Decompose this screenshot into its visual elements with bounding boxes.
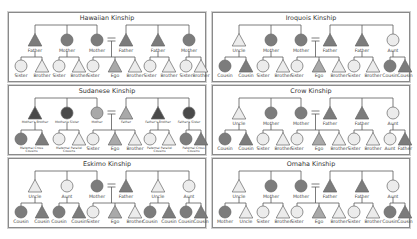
child-label: Brother <box>274 73 291 78</box>
parent-label: Aunt <box>62 194 73 199</box>
female-circle-icon <box>384 60 396 72</box>
parent-label: Father's Brother <box>145 120 171 124</box>
female-circle-icon <box>295 180 307 192</box>
parent-label: Father <box>323 194 338 199</box>
female-circle-icon <box>61 107 73 119</box>
parent-label: Uncle <box>152 194 165 199</box>
parent-label: Mother <box>89 48 105 53</box>
child-label: Sister <box>86 146 99 151</box>
male-triangle-icon <box>332 60 346 73</box>
male-triangle-icon <box>128 206 142 219</box>
female-circle-icon <box>91 107 103 119</box>
parent-label: Father <box>355 121 370 126</box>
male-triangle-icon <box>312 206 326 219</box>
child-label: Ego <box>111 146 120 151</box>
child-label: Cousin <box>382 219 398 224</box>
child-label: Ego <box>315 73 324 78</box>
male-triangle-icon <box>28 180 42 193</box>
child-label: Ego <box>315 219 324 224</box>
child-label: Brother <box>126 73 143 78</box>
child-label: Sister <box>52 73 65 78</box>
child-label: Cousin <box>161 219 177 224</box>
panel-eskimo: Eskimo Kinship UncleAuntMotherFatherUncl… <box>8 158 206 228</box>
female-circle-icon <box>384 133 396 145</box>
parent-label: Mother <box>91 120 103 124</box>
parent-label: Uncle <box>233 48 246 53</box>
female-circle-icon <box>61 180 73 192</box>
male-triangle-icon <box>72 60 86 73</box>
female-circle-icon <box>348 60 360 72</box>
male-triangle-icon <box>366 133 380 146</box>
parent-label: Uncle <box>233 121 246 126</box>
male-triangle-icon <box>332 206 346 219</box>
male-triangle-icon <box>323 107 337 120</box>
parent-label: Mother <box>263 121 279 126</box>
child-label: Sister <box>347 219 360 224</box>
kinship-diagram-grid: Hawaiian Kinship FatherMotherMotherFathe… <box>0 0 417 239</box>
female-circle-icon <box>15 60 27 72</box>
child-label: Brother <box>33 73 50 78</box>
child-label: Brother <box>364 219 381 224</box>
male-triangle-icon <box>151 34 165 47</box>
male-triangle-icon <box>276 206 290 219</box>
parent-label: Father <box>151 48 166 53</box>
parent-label: Father <box>323 48 338 53</box>
female-circle-icon <box>144 60 156 72</box>
male-triangle-icon <box>151 180 165 193</box>
child-label: Sister <box>347 73 360 78</box>
child-label: Aunt <box>385 146 396 151</box>
female-circle-icon <box>387 107 399 119</box>
female-circle-icon <box>183 107 195 119</box>
parent-label: Father <box>323 121 338 126</box>
female-circle-icon <box>61 34 73 46</box>
female-circle-icon <box>219 133 231 145</box>
child-label: Cousin <box>178 219 194 224</box>
cousin-group-label: Cousins <box>25 149 37 153</box>
female-circle-icon <box>53 60 65 72</box>
male-triangle-icon <box>108 60 122 73</box>
female-circle-icon <box>219 60 231 72</box>
male-triangle-icon <box>332 133 346 146</box>
child-label: Cousin <box>217 73 233 78</box>
child-label: Cousin <box>34 219 50 224</box>
cousin-group-label: Cousins <box>153 149 165 153</box>
child-label: Sister <box>14 73 27 78</box>
parent-label: Aunt <box>184 194 195 199</box>
male-triangle-icon <box>128 133 142 146</box>
female-circle-icon <box>91 34 103 46</box>
child-label: Sister <box>347 146 360 151</box>
male-triangle-icon <box>239 206 253 219</box>
child-label: Brother <box>330 73 347 78</box>
child-label: Cousin <box>71 219 87 224</box>
parent-label: Uncle <box>29 194 42 199</box>
parent-label: Father <box>355 48 370 53</box>
kinship-tree: UncleMotherMotherFatherFatherAuntCousinC… <box>213 86 409 154</box>
child-label: Brother <box>330 219 347 224</box>
child-label: Cousin <box>397 73 413 78</box>
child-label: Sister <box>256 73 269 78</box>
male-triangle-icon <box>35 133 49 146</box>
parent-label: Aunt <box>388 48 399 53</box>
parent-label: Mother <box>263 194 279 199</box>
panel-iroquois: Iroquois Kinship UncleMotherMotherFather… <box>212 12 410 82</box>
male-triangle-icon <box>162 60 176 73</box>
male-triangle-icon <box>194 206 208 219</box>
male-triangle-icon <box>398 206 412 219</box>
kinship-tree: FatherMotherMotherFatherFatherMotherSist… <box>9 13 205 81</box>
child-label: Cousin <box>238 146 254 151</box>
male-triangle-icon <box>312 60 326 73</box>
kinship-tree: UncleAuntMotherFatherUncleAuntCousinCous… <box>9 159 205 227</box>
child-label: Sister <box>290 219 303 224</box>
female-circle-icon <box>387 34 399 46</box>
female-circle-icon <box>257 60 269 72</box>
child-label: Sister <box>86 219 99 224</box>
kinship-tree: Mother's BrotherMother's SisterMotherFat… <box>9 86 205 154</box>
cousin-group-label: Cousins <box>187 149 199 153</box>
child-label: Brother <box>126 146 143 151</box>
child-label: Sister <box>256 146 269 151</box>
child-label: Sister <box>256 219 269 224</box>
female-circle-icon <box>87 60 99 72</box>
female-circle-icon <box>53 206 65 218</box>
child-label: Brother <box>274 219 291 224</box>
female-circle-icon <box>265 34 277 46</box>
